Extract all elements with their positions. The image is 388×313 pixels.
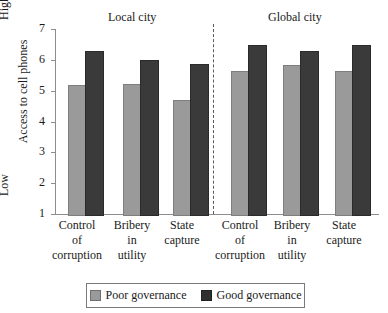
panel-title-local: Local city bbox=[108, 10, 156, 25]
legend-swatch-good-icon bbox=[201, 290, 212, 301]
panel-title-global: Global city bbox=[268, 10, 322, 25]
category-label-line: State bbox=[298, 218, 388, 233]
y-tick-label: 6 bbox=[29, 52, 45, 67]
y-tick-label: 5 bbox=[29, 83, 45, 98]
chart-legend: Poor governance Good governance bbox=[86, 283, 305, 308]
legend-item-poor-governance: Poor governance bbox=[90, 288, 187, 303]
chart-container: Local city Global city Access to cell ph… bbox=[0, 0, 388, 313]
y-tick bbox=[51, 29, 55, 30]
bar-good-1 bbox=[140, 60, 159, 216]
bar-good-5 bbox=[352, 45, 371, 216]
bar-good-4 bbox=[300, 51, 319, 216]
legend-swatch-poor-icon bbox=[90, 290, 101, 301]
y-tick bbox=[51, 183, 55, 184]
y-tick-label: 7 bbox=[29, 21, 45, 36]
y-tick bbox=[51, 60, 55, 61]
category-label-line: capture bbox=[298, 233, 388, 248]
y-tick bbox=[51, 214, 55, 215]
y-axis-low-label: Low bbox=[0, 174, 12, 196]
bar-good-2 bbox=[190, 64, 209, 216]
y-tick bbox=[51, 91, 55, 92]
plot-area bbox=[56, 29, 376, 214]
y-axis-high-label: High bbox=[0, 0, 12, 20]
category-label-line: utility bbox=[246, 248, 338, 263]
y-tick bbox=[51, 152, 55, 153]
y-tick-label: 3 bbox=[29, 144, 45, 159]
legend-item-good-governance: Good governance bbox=[201, 288, 302, 303]
legend-label-good: Good governance bbox=[217, 288, 302, 303]
category-label-line: utility bbox=[86, 248, 178, 263]
y-tick-label: 2 bbox=[29, 175, 45, 190]
category-label-5: Statecapture bbox=[298, 218, 388, 248]
panel-divider bbox=[213, 24, 214, 214]
y-tick bbox=[51, 122, 55, 123]
legend-label-poor: Poor governance bbox=[106, 288, 187, 303]
bar-good-0 bbox=[85, 51, 104, 216]
y-tick-label: 4 bbox=[29, 114, 45, 129]
bar-good-3 bbox=[248, 45, 267, 216]
